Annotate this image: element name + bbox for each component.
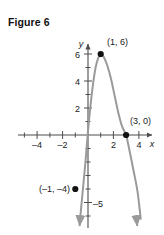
point-x-intercept <box>123 132 129 138</box>
point-label-x-intercept: (3, 0) <box>130 116 151 126</box>
x-tick-label-neg4: –4 <box>32 140 42 150</box>
point-vertex <box>98 51 104 57</box>
x-tick-label-neg2: –2 <box>58 140 68 150</box>
parabola-graph: –4 –2 2 4 2 4 6 –5 x y (1, 6) (3, 0) (–1… <box>0 0 164 235</box>
y-tick-label-2: 2 <box>75 104 80 114</box>
figure-container: Figure 6 <box>0 0 164 235</box>
point-label-vertex: (1, 6) <box>107 37 128 47</box>
axes <box>18 44 152 228</box>
curve-left-arrow <box>80 215 81 226</box>
y-tick-label-4: 4 <box>75 77 80 87</box>
point-left <box>72 186 78 192</box>
x-axis-label: x <box>149 139 155 149</box>
x-tick-label-4: 4 <box>136 140 141 150</box>
parabola-curve <box>80 54 141 219</box>
x-tick-label-2: 2 <box>111 140 116 150</box>
curve-right-arrow <box>136 215 137 226</box>
y-tick-label-neg5: –5 <box>93 199 103 209</box>
y-axis-label: y <box>78 39 84 49</box>
point-label-left: (–1, –4) <box>39 184 70 194</box>
y-tick-label-6: 6 <box>75 50 80 60</box>
